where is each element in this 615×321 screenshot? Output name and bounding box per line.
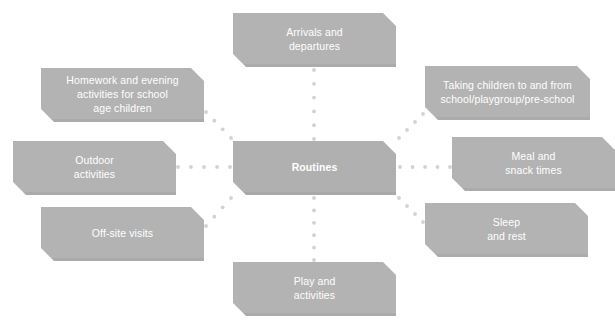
connector-dot xyxy=(229,136,233,140)
connector-dot xyxy=(413,212,417,216)
connector-dot xyxy=(411,165,415,169)
node-label: Outdooractivities xyxy=(23,154,166,182)
connector-dot xyxy=(421,112,425,116)
connector-dot xyxy=(312,96,316,100)
connector-center-to-play xyxy=(312,196,316,262)
node-label: Off-site visits xyxy=(51,227,194,241)
connector-dot xyxy=(405,204,409,208)
connector-dot xyxy=(212,215,216,219)
connector-dot xyxy=(312,82,316,86)
node-label: Arrivals anddepartures xyxy=(243,26,386,54)
connector-dot xyxy=(312,137,316,141)
node-taking-children-to-and-from-school[interactable]: Taking children to and fromschool/playgr… xyxy=(425,66,590,120)
connector-dot xyxy=(228,165,232,169)
connector-dot xyxy=(221,205,225,209)
connector-dot xyxy=(204,110,208,114)
connector-center-to-meal xyxy=(398,165,452,169)
connector-dot xyxy=(229,196,233,200)
node-label: Routines xyxy=(243,161,386,175)
connector-center-to-arrivals xyxy=(312,68,316,141)
connector-dot xyxy=(176,165,180,169)
connector-dot xyxy=(436,165,440,169)
node-play-and-activities[interactable]: Play andactivities xyxy=(233,262,396,316)
connector-center-to-homework xyxy=(204,110,233,140)
connector-dot xyxy=(423,165,427,169)
connector-dot xyxy=(221,127,225,131)
connector-dot xyxy=(204,224,208,228)
node-label: Taking children to and fromschool/playgr… xyxy=(435,79,580,107)
connector-dot xyxy=(448,165,452,169)
connector-dot xyxy=(312,196,316,200)
connector-dot xyxy=(202,165,206,169)
connector-dot xyxy=(398,165,402,169)
connector-center-to-taking xyxy=(397,112,425,140)
connector-dot xyxy=(405,128,409,132)
node-label: Homework and eveningactivities for schoo… xyxy=(51,74,194,116)
connector-dot xyxy=(312,258,316,262)
connector-dot xyxy=(212,119,216,123)
connector-center-to-offsite xyxy=(204,196,233,228)
connector-center-to-outdoor xyxy=(176,165,232,169)
connector-dot xyxy=(312,123,316,127)
connector-dot xyxy=(312,68,316,72)
node-label: Meal andsnack times xyxy=(462,150,605,178)
node-label: Sleepand rest xyxy=(435,216,578,244)
node-outdoor-activities[interactable]: Outdooractivities xyxy=(13,141,176,195)
connector-dot xyxy=(421,220,425,224)
connector-dot xyxy=(312,209,316,213)
node-off-site-visits[interactable]: Off-site visits xyxy=(41,207,204,261)
connector-dot xyxy=(312,221,316,225)
node-label: Play andactivities xyxy=(243,275,386,303)
node-meal-and-snack-times[interactable]: Meal andsnack times xyxy=(452,137,615,191)
node-homework-and-evening-activities[interactable]: Homework and eveningactivities for schoo… xyxy=(41,68,204,122)
connector-dot xyxy=(413,120,417,124)
node-routines-center[interactable]: Routines xyxy=(233,141,396,195)
connector-dot xyxy=(397,196,401,200)
connector-center-to-sleep xyxy=(397,196,425,224)
connector-dot xyxy=(397,136,401,140)
connector-dot xyxy=(312,233,316,237)
connector-dot xyxy=(189,165,193,169)
node-arrivals-and-departures[interactable]: Arrivals anddepartures xyxy=(233,13,396,67)
connector-dot xyxy=(312,246,316,250)
routines-concept-diagram: Arrivals anddepartures Taking children t… xyxy=(0,0,615,321)
connector-dot xyxy=(215,165,219,169)
node-sleep-and-rest[interactable]: Sleepand rest xyxy=(425,203,588,257)
connector-dot xyxy=(312,110,316,114)
